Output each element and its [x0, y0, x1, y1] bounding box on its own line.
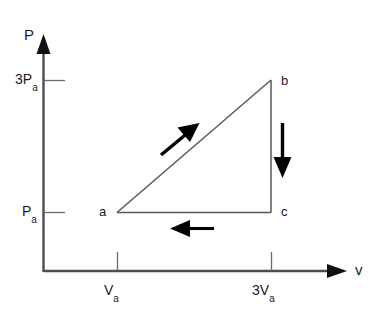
y-axis	[37, 34, 51, 272]
arrow-down-icon-head	[274, 157, 292, 178]
direction-arrow-a-to-b	[161, 123, 200, 155]
direction-arrow-b-to-c	[274, 123, 292, 178]
tick-label-Va-base: V	[104, 282, 113, 298]
tick-label-Va: Va	[104, 283, 119, 297]
tick-label-3Va-prefix: 3	[252, 282, 260, 298]
tick-label-3Pa-subscript: a	[32, 82, 38, 93]
tick-label-3Va: 3Va	[252, 283, 275, 297]
tick-label-Pa: Pa	[22, 204, 37, 218]
y-axis-arrowhead-icon	[37, 34, 51, 54]
tick-label-Pa-subscript: a	[31, 214, 37, 225]
vertex-label-a: a	[99, 205, 106, 218]
y-axis-label: P	[24, 27, 34, 42]
x-axis	[44, 264, 348, 278]
direction-arrow-c-to-a	[170, 220, 214, 237]
vertex-label-c: c	[281, 205, 288, 218]
vertex-label-b: b	[281, 74, 288, 87]
pv-diagram-canvas	[0, 0, 377, 314]
tick-label-3Va-subscript: a	[269, 293, 275, 304]
arrow-left-icon-head	[170, 220, 190, 237]
tick-label-3Pa-base: P	[23, 71, 32, 87]
x-axis-label: v	[355, 262, 363, 277]
pv-diagram: P v 3Pa Pa Va 3Va a b c	[0, 0, 377, 314]
x-axis-ticks	[118, 252, 272, 271]
tick-label-3Pa-prefix: 3	[15, 71, 23, 87]
tick-label-3Pa: 3Pa	[15, 72, 38, 86]
cycle-path	[117, 80, 271, 213]
y-axis-ticks	[44, 81, 65, 213]
process-line-a-to-b	[117, 80, 271, 213]
tick-label-3Va-base: V	[260, 282, 269, 298]
x-axis-arrowhead-icon	[327, 264, 347, 278]
tick-label-Pa-base: P	[22, 203, 31, 219]
tick-label-Va-subscript: a	[113, 293, 119, 304]
